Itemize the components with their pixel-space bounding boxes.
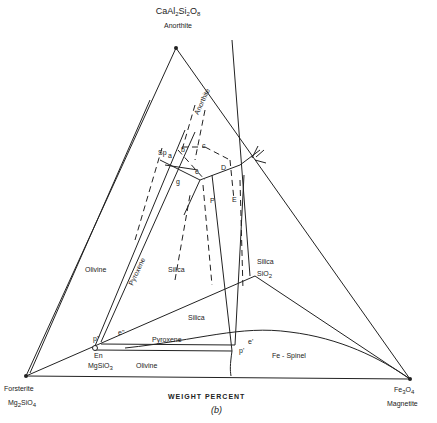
point-g: g [176,178,180,185]
point-d: D [221,164,226,171]
enstatite-abbr: En [94,352,103,359]
field-pyroxene-lower: Pyroxene [152,336,182,343]
point-e: E [232,196,237,203]
field-silica-upper: Silica [168,266,185,273]
point-p2: p" [93,335,99,342]
anorthite-formula: CaAl2Si2O8 [156,6,201,17]
silica-formula: SiO2 [257,270,272,279]
point-e-small: e [195,168,199,175]
anorthite-label: Anorthite [164,22,192,29]
forsterite-formula: Mg2SiO4 [8,399,36,408]
silica-name: Silica [257,258,274,265]
point-c: c [202,142,206,149]
point-b: b [181,146,185,153]
panel-label: (b) [211,405,222,415]
magnetite-formula: Fe3O4 [394,386,414,395]
enstatite-point [93,346,98,351]
point-p1: p' [239,347,244,354]
point-a: a [168,152,172,159]
axis-caption: WEIGHT PERCENT [168,393,245,400]
silica-magnetite-join [255,276,410,379]
field-fe-spinel: Fe - Spinel [272,352,306,359]
point-p: P [210,197,215,204]
forsterite-silica-join [26,276,255,376]
ternary-diagram [0,0,437,423]
magnetite-label: Magnetite [387,400,418,407]
field-olivine-lower: Olivine [136,362,157,369]
point-e1: e' [248,338,253,345]
enstatite-formula: MgSiO3 [88,362,113,371]
point-sp: Sp [158,149,167,156]
field-olivine-upper: Olivine [85,266,106,273]
triangle-outline [26,48,410,379]
point-e2: e" [118,329,124,336]
field-silica-lower: Silica [188,314,205,321]
forsterite-label: Forsterite [4,385,34,392]
